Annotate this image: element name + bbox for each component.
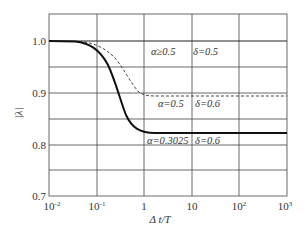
svg-text:δ=0.5: δ=0.5 <box>193 46 218 57</box>
y-axis-label: |λ| <box>12 108 24 119</box>
svg-text:1: 1 <box>141 200 147 212</box>
svg-text:10-1: 10-1 <box>89 200 106 212</box>
svg-text:0.8: 0.8 <box>32 139 46 151</box>
x-axis-label: Δ t/T <box>148 213 171 225</box>
x-tick-labels: 10-2 10-1 1 10 102 103 <box>44 200 293 212</box>
svg-text:0.9: 0.9 <box>32 87 46 99</box>
svg-text:α=0.3025: α=0.3025 <box>147 135 188 146</box>
svg-text:103: 103 <box>278 200 293 212</box>
svg-text:δ=0.6: δ=0.6 <box>195 98 221 109</box>
svg-text:1.0: 1.0 <box>32 35 46 47</box>
y-tick-labels: 1.0 0.9 0.8 0.7 <box>32 35 46 202</box>
svg-text:α≥0.5: α≥0.5 <box>151 46 175 57</box>
svg-text:δ=0.6: δ=0.6 <box>195 135 221 146</box>
svg-text:10: 10 <box>187 200 199 212</box>
svg-text:α=0.5: α=0.5 <box>158 98 184 109</box>
chart: 1.0 0.9 0.8 0.7 10-2 10-1 1 10 102 103 Δ… <box>0 0 306 232</box>
svg-text:10-2: 10-2 <box>44 200 61 212</box>
svg-text:102: 102 <box>232 200 247 212</box>
